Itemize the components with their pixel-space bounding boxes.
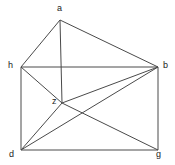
graph-edge <box>60 20 158 67</box>
graph-figure: ahbzdg <box>0 0 175 165</box>
graph-edge <box>21 67 158 150</box>
vertex-label-z: z <box>52 97 57 106</box>
edge-layer <box>21 20 158 150</box>
graph-edge <box>62 67 158 103</box>
graph-edge <box>60 20 62 103</box>
graph-edge <box>21 103 62 150</box>
graph-edge <box>62 103 158 150</box>
vertex-label-a: a <box>57 4 62 13</box>
vertex-label-d: d <box>9 150 14 159</box>
vertex-label-g: g <box>156 150 161 159</box>
vertex-label-b: b <box>163 61 168 70</box>
graph-edge <box>21 20 60 67</box>
vertex-label-h: h <box>8 61 13 70</box>
graph-canvas <box>0 0 175 165</box>
